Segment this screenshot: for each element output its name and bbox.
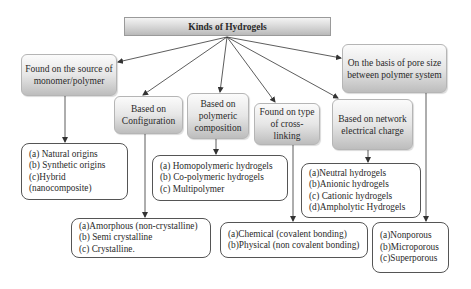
leaf-composition: (a) Homopolymeric hydrogels (b) Co-polym… [152,155,288,201]
leaf-pore: (a)Nonporous (b)Microporous (c)Superporo… [372,222,449,273]
diagram-title: Kinds of Hydrogels [124,17,331,36]
category-label: Based on Configuration [118,103,179,127]
list-item: (c) Crystalline. [79,244,198,256]
leaf-configuration: (a)Amorphous (non-crystalline) (b) Semi … [71,218,211,258]
category-label: Based on network electrical charge [336,113,409,137]
list-item: (a) Homopolymeric hydrogels [160,161,273,173]
category-pore: On the basis of pore size between polyme… [342,44,447,93]
list-item: (a) Natural origins [29,149,105,161]
category-label: Found on type of cross-linking [258,106,316,142]
list-item: (c)Superporous [380,253,439,265]
leaf-source: (a) Natural origins (b) Synthetic origin… [21,143,128,200]
list-item: (a)Chemical (covalent bonding) [228,229,359,241]
list-item: (b)Anionic hydrogels [309,179,405,191]
category-composition: Based on polymeric composition [187,93,249,139]
category-label: On the basis of pore size between polyme… [346,57,443,81]
category-charge: Based on network electrical charge [332,99,413,150]
category-label: Based on polymeric composition [191,98,245,134]
category-configuration: Based on Configuration [114,96,183,134]
list-item: (b) Semi crystalline [79,232,198,244]
list-item: (nanocomposite) [29,183,105,195]
list-item: (b)Microporous [380,242,439,254]
list-item: (a)Amorphous (non-crystalline) [79,221,198,233]
list-item: (c)Hybrid [29,172,105,184]
leaf-charge: (a)Neutral hydrogels (b)Anionic hydrogel… [301,163,421,218]
list-item: (b) Synthetic origins [29,160,105,172]
category-label: Found on the source of monomer/polymer [25,63,113,87]
list-item: (c) Cationic hydrogels [309,191,405,203]
list-item: (c) Multipolymer [160,184,273,196]
list-item: (a)Neutral hydrogels [309,168,405,180]
list-item: (a)Nonporous [380,230,439,242]
list-item: (b) Co-polymeric hydrogels [160,172,273,184]
leaf-crosslinking: (a)Chemical (covalent bonding) (b)Physic… [220,222,368,258]
category-source: Found on the source of monomer/polymer [21,54,117,96]
category-crosslinking: Found on type of cross-linking [254,103,320,145]
list-item: (d)Ampholytic Hydrogels [309,202,405,214]
list-item: (b)Physical (non covalent bonding) [228,240,359,252]
